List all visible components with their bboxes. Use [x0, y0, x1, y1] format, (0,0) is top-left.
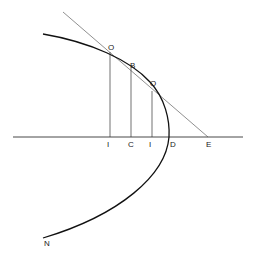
label-O-upper: O	[108, 44, 114, 52]
label-C: C	[128, 141, 134, 149]
label-B: B	[130, 62, 135, 70]
curve	[43, 34, 169, 238]
label-O-lower: O	[150, 80, 156, 88]
label-N: N	[44, 240, 50, 248]
label-I-left: I	[107, 141, 109, 149]
tangent-line	[63, 12, 208, 137]
label-I-right: I	[149, 141, 151, 149]
label-D: D	[170, 141, 176, 149]
diagram-figure	[0, 0, 254, 261]
label-E: E	[206, 141, 211, 149]
diagram-canvas: O B O I C I D E N	[0, 0, 254, 261]
